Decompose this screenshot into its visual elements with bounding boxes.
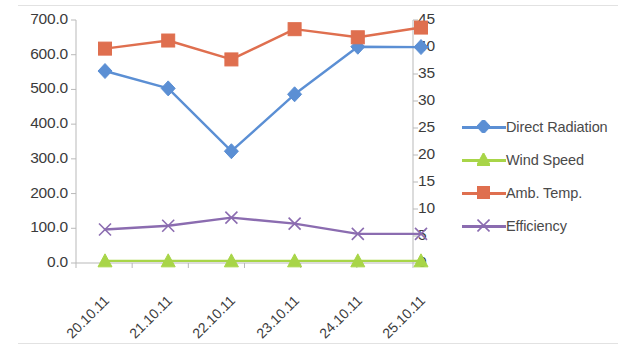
legend-label: Efficiency — [506, 218, 567, 234]
legend-item[interactable]: Efficiency — [462, 209, 628, 242]
chart-legend: Direct RadiationWind SpeedAmb. Temp.Effi… — [462, 110, 628, 242]
marker-square — [415, 21, 428, 34]
marker-square — [162, 34, 175, 47]
marker-diamond — [477, 120, 490, 133]
legend-marker-triangle-icon — [462, 149, 506, 171]
data-point-marker — [414, 40, 428, 55]
legend-label: Amb. Temp. — [506, 185, 582, 201]
marker-square — [351, 31, 364, 44]
legend-item[interactable]: Wind Speed — [462, 143, 628, 176]
series-direct-radiation — [98, 39, 428, 158]
data-point-marker — [162, 34, 175, 47]
chart-container: 0.0100.0200.0300.0400.0500.0600.0700.0 0… — [0, 0, 628, 349]
legend-label: Wind Speed — [506, 152, 584, 168]
marker-square — [477, 186, 490, 199]
legend-marker-x-icon — [462, 215, 506, 237]
legend-item[interactable]: Direct Radiation — [462, 110, 628, 143]
legend-label: Direct Radiation — [506, 119, 608, 135]
series-line — [105, 218, 421, 234]
legend-marker-glyph — [477, 120, 490, 133]
series-line — [105, 47, 421, 151]
data-point-marker — [477, 186, 490, 199]
data-point-marker — [415, 21, 428, 34]
data-point-marker — [225, 53, 238, 66]
marker-diamond — [414, 40, 428, 55]
marker-square — [225, 53, 238, 66]
data-point-marker — [99, 42, 112, 55]
series-line — [105, 28, 421, 60]
data-point-marker — [288, 23, 301, 36]
data-point-marker — [98, 64, 112, 79]
legend-marker-glyph — [477, 219, 490, 232]
marker-diamond — [98, 64, 112, 79]
legend-marker-glyph — [477, 153, 490, 166]
series-amb-temp — [99, 21, 428, 66]
legend-item[interactable]: Amb. Temp. — [462, 176, 628, 209]
legend-marker-glyph — [477, 186, 490, 199]
data-point-marker — [477, 120, 490, 133]
series-wind-speed — [98, 254, 428, 267]
marker-square — [99, 42, 112, 55]
marker-triangle — [477, 153, 490, 166]
data-point-marker — [351, 31, 364, 44]
data-point-marker — [477, 153, 490, 166]
marker-square — [288, 23, 301, 36]
legend-marker-diamond-icon — [462, 116, 506, 138]
data-point-marker — [478, 219, 490, 231]
legend-marker-square-icon — [462, 182, 506, 204]
series-efficiency — [99, 212, 427, 240]
